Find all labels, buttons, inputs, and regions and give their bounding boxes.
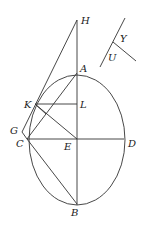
label-E: E — [63, 141, 72, 152]
label-H: H — [80, 15, 90, 26]
label-U: U — [108, 52, 117, 63]
label-A: A — [79, 63, 87, 74]
line-U — [113, 42, 136, 61]
label-D: D — [127, 138, 136, 149]
label-K: K — [23, 99, 32, 110]
label-G: G — [10, 125, 18, 136]
label-B: B — [70, 207, 78, 218]
label-C: C — [16, 138, 24, 149]
geometry-diagram: H A K L G C E D B Y U — [0, 0, 143, 230]
label-Y: Y — [120, 33, 128, 44]
label-L: L — [79, 99, 87, 110]
segment-K-perp — [35, 104, 46, 114]
